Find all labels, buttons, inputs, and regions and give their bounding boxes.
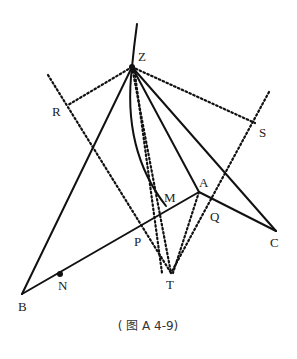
line-ZB — [22, 67, 132, 294]
label-Q: Q — [210, 209, 220, 224]
curve-top — [132, 24, 137, 67]
label-C: C — [270, 235, 279, 250]
label-R: R — [52, 104, 61, 119]
label-B: B — [18, 299, 27, 314]
label-Z: Z — [138, 49, 146, 64]
label-M: M — [164, 190, 176, 205]
label-T: T — [166, 277, 174, 292]
geometry-diagram: Z R S A M P Q T B N C ( 图 A 4-9) — [0, 0, 297, 359]
label-S: S — [259, 125, 266, 140]
dotted-ST — [171, 92, 269, 273]
label-A: A — [199, 175, 209, 190]
point-Z — [129, 64, 135, 70]
dotted-ZS — [132, 67, 255, 123]
figure-caption: ( 图 A 4-9) — [118, 319, 179, 333]
label-N: N — [58, 278, 68, 293]
point-N — [57, 271, 63, 277]
label-P: P — [134, 234, 141, 249]
